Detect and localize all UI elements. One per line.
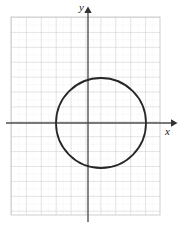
y-axis-label: y (79, 2, 84, 13)
x-axis-arrowhead (171, 119, 178, 126)
grid-major (11, 17, 160, 215)
grid-layer (11, 17, 160, 215)
coordinate-plane-svg (0, 0, 181, 230)
y-axis-arrowhead (84, 7, 91, 14)
graph-figure: y x (0, 0, 181, 230)
x-axis-label: x (165, 126, 170, 137)
